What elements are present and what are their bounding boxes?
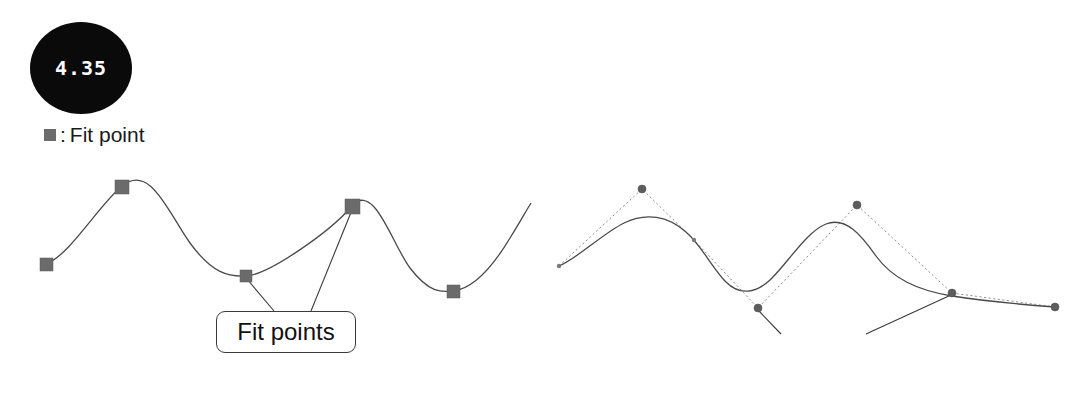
figure-root: 4.35 : Fit point Fit points 4.36 : Contr… — [0, 0, 1088, 396]
control-vertex-marker — [948, 289, 956, 297]
control-vertex-marker — [638, 185, 646, 193]
leader-line-cv-right — [866, 295, 951, 334]
leader-line-cv-left — [758, 310, 781, 334]
fit-point-marker — [447, 285, 460, 298]
control-polygon — [559, 189, 1055, 308]
fit-point-spline-curve — [46, 180, 531, 291]
leader-line-fit-left — [247, 279, 274, 311]
leader-line-fit-right — [311, 210, 352, 311]
fit-point-marker — [40, 258, 53, 271]
curve-drawing-layer — [0, 0, 1088, 396]
fit-point-marker — [345, 199, 360, 214]
control-vertex-marker — [853, 201, 861, 209]
control-vertex-marker — [692, 238, 696, 242]
fit-point-marker — [240, 270, 252, 282]
fit-point-marker — [115, 180, 129, 194]
control-vertex-marker — [557, 264, 561, 268]
control-vertex-spline-curve — [559, 217, 1055, 307]
control-vertex-marker — [1051, 303, 1059, 311]
control-vertex-marker — [754, 304, 762, 312]
